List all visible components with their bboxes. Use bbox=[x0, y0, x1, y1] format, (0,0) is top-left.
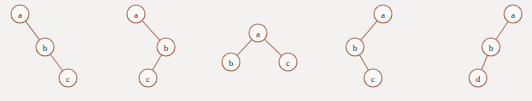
tree-node-label: a bbox=[511, 10, 515, 20]
tree-node-label: b bbox=[489, 43, 494, 53]
tree-node: b bbox=[346, 38, 364, 56]
tree-5: abd bbox=[469, 5, 522, 87]
tree-node-label: c bbox=[371, 74, 375, 84]
tree-node-label: a bbox=[256, 29, 260, 39]
tree-node: a bbox=[11, 5, 29, 23]
tree-edge bbox=[50, 54, 62, 71]
tree-edge bbox=[25, 21, 39, 40]
tree-node: a bbox=[504, 5, 522, 23]
tree-1: abc bbox=[11, 5, 77, 87]
tree-edge bbox=[496, 21, 508, 39]
tree-node: a bbox=[127, 5, 145, 23]
tree-node-label: a bbox=[381, 10, 385, 20]
tree-edge bbox=[153, 55, 162, 70]
tree-4: abc bbox=[346, 5, 392, 87]
tree-node-label: b bbox=[43, 43, 48, 53]
tree-node-label: b bbox=[164, 43, 169, 53]
tree-node-label: a bbox=[18, 10, 22, 20]
tree-node: c bbox=[59, 69, 77, 87]
tree-node-label: b bbox=[229, 58, 234, 68]
tree-node: b bbox=[36, 38, 54, 56]
tree-node: b bbox=[222, 53, 240, 71]
tree-node-label: c bbox=[146, 74, 150, 84]
tree-node-label: d bbox=[476, 74, 481, 84]
tree-node: b bbox=[482, 38, 500, 56]
tree-node-label: c bbox=[66, 74, 70, 84]
tree-edge bbox=[481, 55, 487, 69]
tree-node: c bbox=[364, 69, 382, 87]
tree-node-label: a bbox=[134, 10, 138, 20]
tree-edge bbox=[360, 55, 369, 70]
tree-edge bbox=[361, 21, 377, 40]
tree-diagram-canvas: abcabcabcabcabd bbox=[0, 0, 532, 101]
tree-edge bbox=[264, 39, 281, 55]
tree-node-label: c bbox=[286, 58, 290, 68]
binary-tree-shapes-figure: abcabcabcabcabd bbox=[0, 0, 532, 101]
tree-node: a bbox=[374, 5, 392, 23]
tree-node-label: b bbox=[353, 43, 358, 53]
tree-node: c bbox=[279, 53, 297, 71]
tree-node: c bbox=[139, 69, 157, 87]
tree-node: a bbox=[249, 24, 267, 42]
tree-node: d bbox=[469, 69, 487, 87]
tree-edge bbox=[142, 21, 160, 41]
tree-3: abc bbox=[222, 24, 297, 71]
tree-edge bbox=[237, 40, 252, 56]
tree-2: abc bbox=[127, 5, 175, 87]
tree-node: b bbox=[157, 38, 175, 56]
